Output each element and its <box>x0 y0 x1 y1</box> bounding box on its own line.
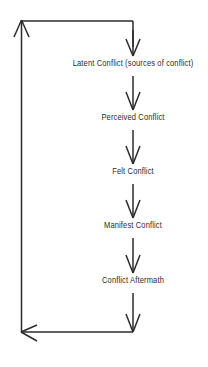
stage-label-manifest: Manifest Conflict <box>41 221 208 231</box>
arrow-perceived-to-felt <box>126 130 140 164</box>
arrow-head-left <box>126 39 133 56</box>
arrow-aftermath-to-feedback <box>126 293 140 332</box>
arrow-head-left <box>126 92 133 110</box>
flow-connectors <box>0 0 208 367</box>
arrow-head-right <box>133 146 140 164</box>
stage-label-perceived: Perceived Conflict <box>41 113 208 123</box>
stage-label-felt: Felt Conflict <box>41 167 208 177</box>
arrow-head-right <box>133 39 140 56</box>
arrow-head-left <box>126 200 133 218</box>
arrow-head-left <box>126 146 133 164</box>
conflict-process-diagram: Latent Conflict (sources of conflict) Pe… <box>0 0 208 367</box>
arrow-felt-to-manifest <box>126 184 140 218</box>
arrow-head-right <box>133 92 140 110</box>
arrow-head-right <box>133 200 140 218</box>
arrow-into-latent <box>126 30 140 56</box>
stage-label-aftermath: Conflict Aftermath <box>41 276 208 286</box>
stage-label-latent: Latent Conflict (sources of conflict) <box>41 59 208 69</box>
arrow-manifest-to-aftermath <box>126 238 140 273</box>
arrow-latent-to-perceived <box>126 76 140 110</box>
arrow-head-left <box>126 314 133 332</box>
arrow-head-right <box>133 255 140 273</box>
arrow-head-left <box>126 255 133 273</box>
arrow-head-right <box>133 314 140 332</box>
feedback-bottom-arrowhead-icon <box>21 325 37 341</box>
